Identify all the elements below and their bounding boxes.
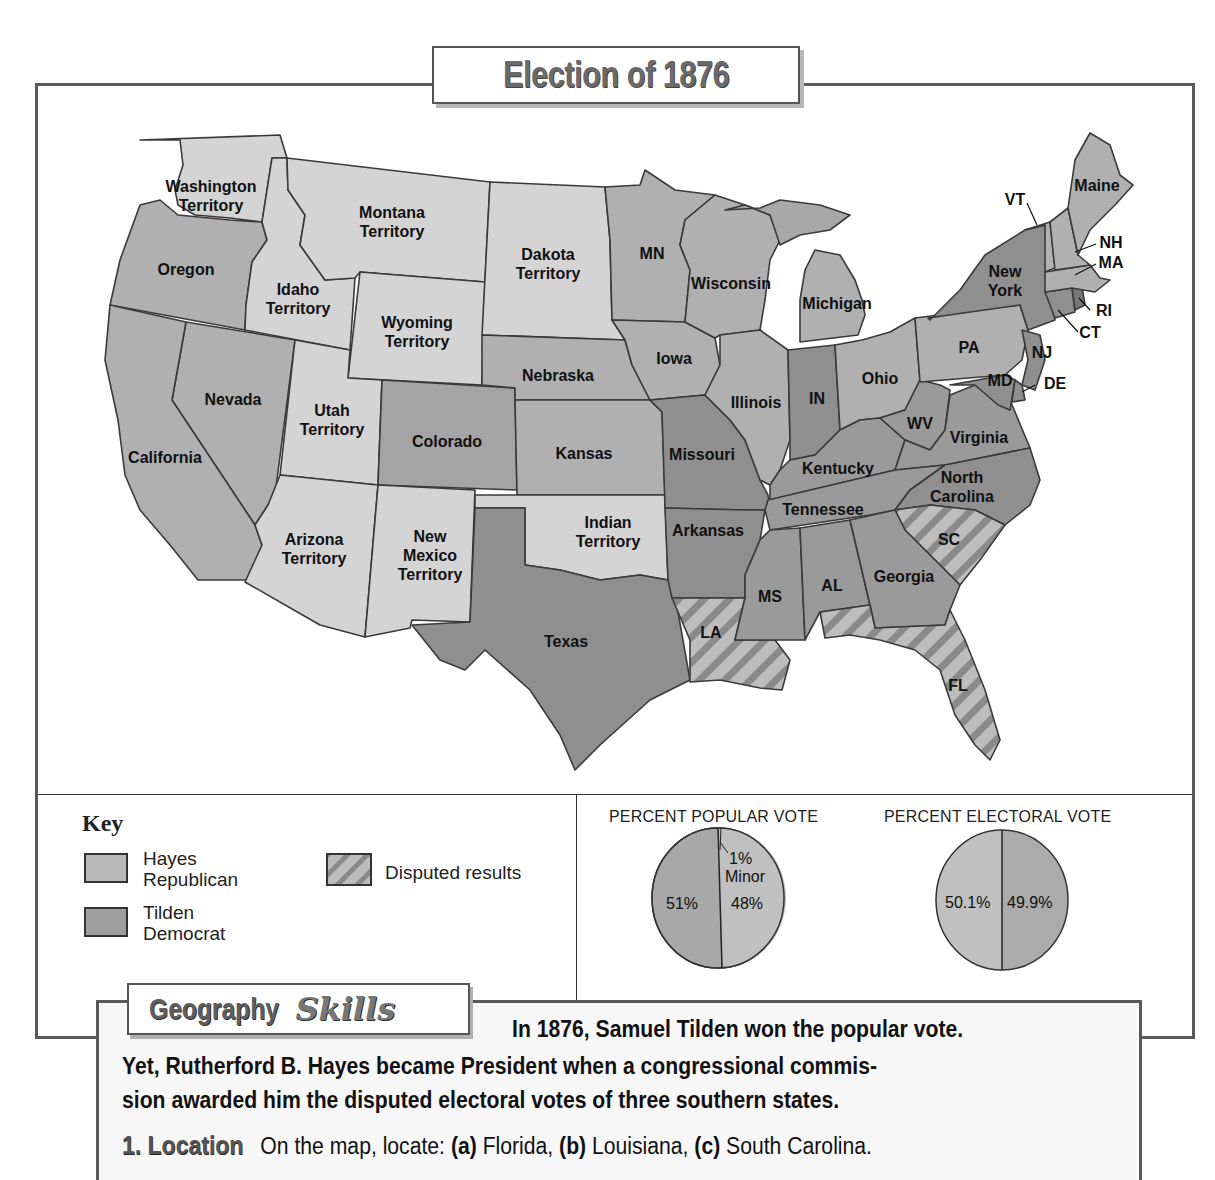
- label-texas: Texas: [544, 633, 588, 650]
- popular-minor-label: Minor: [725, 868, 766, 885]
- label-washington-2: Territory: [179, 197, 244, 214]
- label-nj: NJ: [1032, 344, 1052, 361]
- geography-skills-label: Geography Skills: [127, 983, 470, 1035]
- label-missouri: Missouri: [669, 446, 735, 463]
- label-new-mexico-3: Territory: [398, 566, 463, 583]
- label-tennessee: Tennessee: [782, 501, 864, 518]
- label-dakota: Dakota: [521, 246, 574, 263]
- state-fl-disputed: [820, 605, 1000, 760]
- marker-b: (b): [559, 1133, 586, 1159]
- label-la: LA: [700, 624, 722, 641]
- label-nevada: Nevada: [205, 391, 262, 408]
- popular-hayes-pct: 48%: [731, 895, 763, 912]
- label-virginia: Virginia: [950, 429, 1008, 446]
- label-north-carolina: North: [941, 469, 984, 486]
- label-kentucky: Kentucky: [802, 460, 874, 477]
- label-de: DE: [1044, 375, 1067, 392]
- label-new-mexico: New: [414, 528, 447, 545]
- label-idaho: Idaho: [277, 281, 320, 298]
- key-label-disputed: Disputed results: [385, 862, 521, 883]
- label-vt: VT: [1005, 191, 1026, 208]
- label-arkansas: Arkansas: [672, 522, 744, 539]
- label-utah: Utah: [314, 402, 350, 419]
- label-california: California: [128, 449, 202, 466]
- label-idaho-2: Territory: [266, 300, 331, 317]
- skills-question-1: 1. Location On the map, locate: (a) Flor…: [122, 1131, 872, 1160]
- answer-c: South Carolina.: [720, 1133, 872, 1159]
- marker-a: (a): [451, 1133, 477, 1159]
- label-dakota-2: Territory: [516, 265, 581, 282]
- label-wisconsin: Wisconsin: [691, 275, 771, 292]
- label-ms: MS: [758, 588, 782, 605]
- label-md: MD: [988, 372, 1013, 389]
- state-wisconsin: [680, 195, 780, 338]
- label-nebraska: Nebraska: [522, 367, 594, 384]
- swatch-tilden: [84, 907, 128, 937]
- label-indian-2: Territory: [576, 533, 641, 550]
- answer-b: Louisiana,: [586, 1133, 694, 1159]
- us-map: Washington Territory Oregon California N…: [0, 0, 1215, 800]
- popular-minor-pct: 1%: [729, 850, 752, 867]
- label-montana-2: Territory: [360, 223, 425, 240]
- label-ma: MA: [1099, 254, 1124, 271]
- key-label-hayes-1: Hayes: [143, 848, 238, 869]
- popular-tilden-pct: 51%: [666, 895, 698, 912]
- popular-vote-pie: 1% Minor 51% 48%: [640, 820, 800, 980]
- label-new-york: New: [989, 263, 1022, 280]
- label-nh: NH: [1099, 234, 1122, 251]
- question-number: 1. Location: [122, 1131, 243, 1159]
- label-in: IN: [809, 390, 825, 407]
- label-pa: PA: [958, 339, 979, 356]
- label-iowa: Iowa: [656, 350, 692, 367]
- skills-text-line3: sion awarded him the disputed electoral …: [122, 1087, 839, 1114]
- label-arizona: Arizona: [285, 531, 344, 548]
- label-fl: FL: [948, 677, 968, 694]
- label-colorado: Colorado: [412, 433, 482, 450]
- label-wyoming-2: Territory: [385, 333, 450, 350]
- label-montana: Montana: [359, 204, 425, 221]
- label-arizona-2: Territory: [282, 550, 347, 567]
- label-wyoming: Wyoming: [381, 314, 453, 331]
- label-washington: Washington: [166, 178, 257, 195]
- geography-word: Geography: [149, 992, 279, 1026]
- label-georgia: Georgia: [874, 568, 935, 585]
- label-north-carolina-2: Carolina: [930, 488, 994, 505]
- label-illinois: Illinois: [731, 394, 782, 411]
- label-sc: SC: [938, 531, 961, 548]
- key-label-hayes-2: Republican: [143, 869, 238, 890]
- skills-text-line2: Yet, Rutherford B. Hayes became Presiden…: [122, 1053, 877, 1080]
- label-michigan: Michigan: [802, 295, 871, 312]
- skills-text-line1: In 1876, Samuel Tilden won the popular v…: [512, 1016, 963, 1043]
- key-label-tilden-1: Tilden: [143, 902, 225, 923]
- label-utah-2: Territory: [300, 421, 365, 438]
- question-prefix: On the map, locate:: [260, 1133, 451, 1159]
- electoral-tilden-pct: 49.9%: [1007, 894, 1052, 911]
- key-label-tilden-2: Democrat: [143, 923, 225, 944]
- key-label-tilden: Tilden Democrat: [143, 902, 225, 944]
- label-wv: WV: [907, 415, 933, 432]
- label-indian: Indian: [584, 514, 631, 531]
- electoral-vote-pie: 50.1% 49.9%: [922, 822, 1082, 982]
- label-ri: RI: [1096, 302, 1112, 319]
- label-new-york-2: York: [988, 282, 1022, 299]
- key-title: Key: [82, 810, 123, 837]
- skills-word: Skills: [295, 990, 395, 1028]
- label-ohio: Ohio: [862, 370, 899, 387]
- answer-a: Florida,: [477, 1133, 559, 1159]
- label-ct: CT: [1079, 324, 1101, 341]
- key-label-hayes: Hayes Republican: [143, 848, 238, 890]
- electoral-hayes-pct: 50.1%: [945, 894, 990, 911]
- swatch-hayes: [84, 853, 128, 883]
- label-mn: MN: [640, 245, 665, 262]
- label-kansas: Kansas: [556, 445, 613, 462]
- label-al: AL: [821, 577, 843, 594]
- label-maine: Maine: [1074, 177, 1119, 194]
- swatch-disputed: [326, 853, 372, 886]
- marker-c: (c): [694, 1133, 720, 1159]
- key-divider-vertical: [576, 795, 577, 1000]
- label-oregon: Oregon: [158, 261, 215, 278]
- label-new-mexico-2: Mexico: [403, 547, 457, 564]
- key-divider-horizontal: [38, 794, 1192, 795]
